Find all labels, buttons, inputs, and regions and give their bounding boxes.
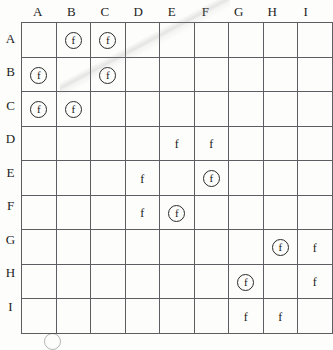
column-header-h: H [256, 2, 290, 22]
grid-cell-ge[interactable] [160, 230, 195, 265]
grid-cell-ed[interactable]: f [125, 161, 160, 196]
grid-cell-df[interactable]: f [194, 126, 229, 161]
grid-cell-da[interactable] [22, 126, 57, 161]
grid-cell-ba[interactable]: f [22, 57, 57, 92]
grid-row: ff [22, 264, 333, 299]
row-label-d: D [2, 123, 19, 157]
grid-cell-bg[interactable] [229, 57, 264, 92]
grid-cell-hc[interactable] [91, 264, 126, 299]
grid-cell-cg[interactable] [229, 92, 264, 127]
grid-cell-dh[interactable] [263, 126, 298, 161]
grid-cell-ec[interactable] [91, 161, 126, 196]
grid-cell-dd[interactable] [125, 126, 160, 161]
grid-cell-he[interactable] [160, 264, 195, 299]
column-header-a: A [21, 2, 55, 22]
circled-f-icon: f [99, 32, 116, 49]
grid-cell-ad[interactable] [125, 23, 160, 58]
grid-cell-gd[interactable] [125, 230, 160, 265]
grid-cell-eh[interactable] [263, 161, 298, 196]
grid-cell-ac[interactable]: f [91, 23, 126, 58]
grid-cell-fi[interactable] [298, 195, 333, 230]
grid-cell-if[interactable] [194, 299, 229, 334]
grid-cell-hh[interactable] [263, 264, 298, 299]
grid-cell-gc[interactable] [91, 230, 126, 265]
grid-cell-cc[interactable] [91, 92, 126, 127]
grid-cell-ff[interactable] [194, 195, 229, 230]
grid-cell-cb[interactable]: f [56, 92, 91, 127]
plain-f-icon: f [140, 173, 144, 185]
row-label-column: ABCDEFGHI [2, 22, 19, 324]
column-header-c: C [88, 2, 122, 22]
plain-f-icon: f [278, 311, 282, 323]
grid-cell-ie[interactable] [160, 299, 195, 334]
column-header-e: E [155, 2, 189, 22]
grid-cell-cf[interactable] [194, 92, 229, 127]
grid-cell-fd[interactable]: f [125, 195, 160, 230]
grid-cell-id[interactable] [125, 299, 160, 334]
grid-cell-cd[interactable] [125, 92, 160, 127]
grid-cell-gi[interactable]: f [298, 230, 333, 265]
grid-cell-ea[interactable] [22, 161, 57, 196]
grid-cell-bb[interactable] [56, 57, 91, 92]
grid-cell-fb[interactable] [56, 195, 91, 230]
grid-cell-ef[interactable]: f [194, 161, 229, 196]
grid-cell-bi[interactable] [298, 57, 333, 92]
circled-f-icon: f [99, 67, 116, 84]
grid-table: ffffffffffffffffff [21, 22, 333, 334]
grid-cell-ih[interactable]: f [263, 299, 298, 334]
grid-cell-bd[interactable] [125, 57, 160, 92]
grid-cell-ab[interactable]: f [56, 23, 91, 58]
grid-cell-fc[interactable] [91, 195, 126, 230]
grid-cell-ae[interactable] [160, 23, 195, 58]
grid-cell-ci[interactable] [298, 92, 333, 127]
grid-cell-eg[interactable] [229, 161, 264, 196]
grid-cell-hg[interactable]: f [229, 264, 264, 299]
grid-cell-ib[interactable] [56, 299, 91, 334]
grid-cell-bc[interactable]: f [91, 57, 126, 92]
grid-cell-ha[interactable] [22, 264, 57, 299]
grid-cell-gb[interactable] [56, 230, 91, 265]
grid-cell-dg[interactable] [229, 126, 264, 161]
grid-cell-hf[interactable] [194, 264, 229, 299]
grid-cell-ei[interactable] [298, 161, 333, 196]
circled-f-icon: f [203, 170, 220, 187]
grid-cell-db[interactable] [56, 126, 91, 161]
grid-cell-be[interactable] [160, 57, 195, 92]
grid-cell-ce[interactable] [160, 92, 195, 127]
grid-cell-ai[interactable] [298, 23, 333, 58]
grid-cell-fa[interactable] [22, 195, 57, 230]
grid-cell-gf[interactable] [194, 230, 229, 265]
row-label-f: F [2, 190, 19, 224]
grid-cell-ig[interactable]: f [229, 299, 264, 334]
grid-cell-de[interactable]: f [160, 126, 195, 161]
circled-f-icon: f [30, 67, 47, 84]
grid-row: ff [22, 92, 333, 127]
grid-cell-gh[interactable]: f [263, 230, 298, 265]
plain-f-icon: f [209, 138, 213, 150]
row-label-b: B [2, 56, 19, 90]
grid-cell-fe[interactable]: f [160, 195, 195, 230]
grid-cell-bf[interactable] [194, 57, 229, 92]
grid-cell-ca[interactable]: f [22, 92, 57, 127]
grid-cell-ic[interactable] [91, 299, 126, 334]
grid-cell-gg[interactable] [229, 230, 264, 265]
grid-cell-af[interactable] [194, 23, 229, 58]
grid-cell-ee[interactable] [160, 161, 195, 196]
grid-cell-ia[interactable] [22, 299, 57, 334]
grid-cell-ch[interactable] [263, 92, 298, 127]
grid-cell-hb[interactable] [56, 264, 91, 299]
grid-cell-fh[interactable] [263, 195, 298, 230]
grid-cell-hd[interactable] [125, 264, 160, 299]
grid-cell-aa[interactable] [22, 23, 57, 58]
grid-cell-ii[interactable] [298, 299, 333, 334]
grid-cell-ag[interactable] [229, 23, 264, 58]
grid-cell-ah[interactable] [263, 23, 298, 58]
grid-cell-di[interactable] [298, 126, 333, 161]
grid-cell-eb[interactable] [56, 161, 91, 196]
grid-cell-hi[interactable]: f [298, 264, 333, 299]
grid-cell-ga[interactable] [22, 230, 57, 265]
grid-cell-dc[interactable] [91, 126, 126, 161]
grid-cell-fg[interactable] [229, 195, 264, 230]
grid-cell-bh[interactable] [263, 57, 298, 92]
